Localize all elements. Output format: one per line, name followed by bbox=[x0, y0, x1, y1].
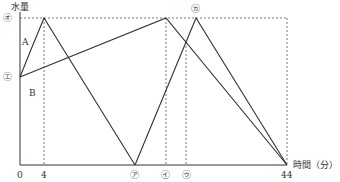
line-b-label: B bbox=[29, 88, 36, 98]
peak-marker: ㋕ bbox=[191, 4, 200, 14]
line-a bbox=[20, 18, 135, 165]
x-tick-4: 4 bbox=[41, 170, 47, 180]
line-refill bbox=[135, 18, 287, 165]
x-axis-label: 時間（分） bbox=[293, 160, 338, 170]
x-tick-i: ㋑ bbox=[161, 170, 170, 180]
line-b bbox=[20, 18, 287, 165]
x-tick-u: ㋒ bbox=[182, 170, 191, 180]
x-tick-0: 0 bbox=[17, 170, 23, 180]
water-volume-diagram: 水量 ㋔ ㋓ A B ㋕ 0 4 ㋐ ㋑ ㋒ 44 時間（分） bbox=[0, 0, 340, 182]
x-tick-44: 44 bbox=[281, 170, 293, 180]
y-tick-initial: ㋓ bbox=[3, 72, 12, 82]
x-tick-a: ㋐ bbox=[130, 170, 139, 180]
y-tick-max: ㋔ bbox=[3, 13, 12, 23]
line-a-label: A bbox=[21, 37, 29, 47]
y-axis-label: 水量 bbox=[11, 1, 29, 12]
